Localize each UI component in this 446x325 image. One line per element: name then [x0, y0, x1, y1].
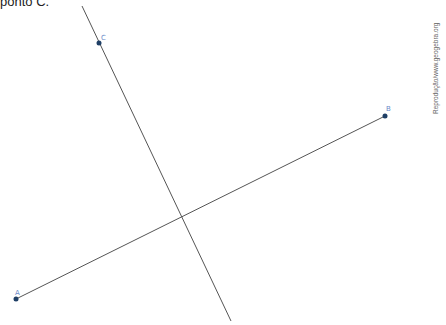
label-a: A [15, 289, 20, 297]
line-through-c [82, 6, 231, 321]
credit-label: Reprodução/www.geogebra.org [432, 23, 439, 114]
credit-text: Reprodução/www.geogebra.org [432, 4, 440, 114]
geometry-canvas[interactable]: A B C [0, 0, 446, 325]
label-c: C [101, 34, 106, 42]
point-b[interactable] [383, 114, 388, 119]
label-b: B [386, 105, 391, 113]
point-a[interactable] [14, 297, 19, 302]
line-ab [16, 116, 385, 299]
